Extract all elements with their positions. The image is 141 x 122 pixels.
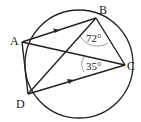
point-label-a: A <box>10 34 19 48</box>
circle <box>25 10 133 118</box>
angle-label-b: 72° <box>86 32 101 44</box>
point-label-c: C <box>127 59 135 73</box>
geometry-diagram: 72° 35° A B C D <box>0 0 141 122</box>
point-label-d: D <box>16 97 25 111</box>
angle-arc-c <box>82 57 84 72</box>
segment-ac <box>22 42 125 65</box>
point-label-b: B <box>99 3 107 17</box>
arrow-dc-icon <box>67 79 74 84</box>
segment-dc <box>28 65 125 94</box>
angle-label-c: 35° <box>86 60 101 72</box>
